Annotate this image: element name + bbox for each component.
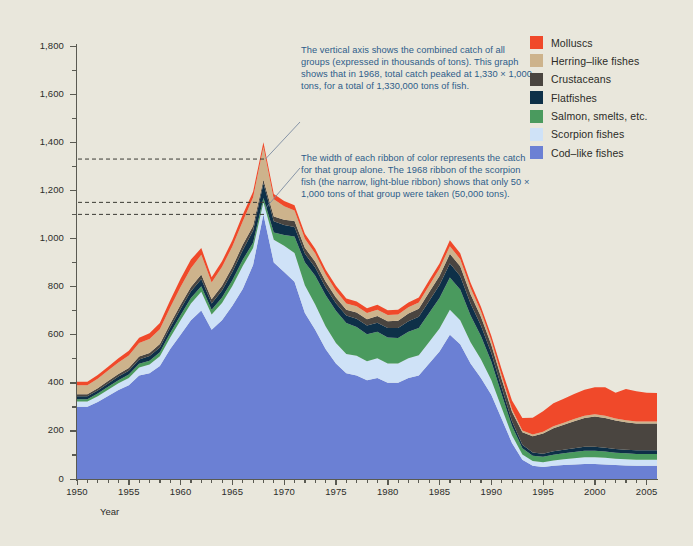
legend-item[interactable]: Herring–like fishes	[530, 54, 690, 67]
x-tick-minor	[201, 480, 202, 483]
x-tick-minor	[139, 480, 140, 483]
y-tick-label: 1,600	[40, 88, 64, 99]
x-tick-minor	[636, 480, 637, 483]
y-tick-label: 800	[48, 280, 64, 291]
x-tick-minor	[615, 480, 616, 483]
y-tick-label: 200	[48, 424, 64, 435]
y-tick-minor	[72, 214, 76, 215]
x-tick-minor	[149, 480, 150, 483]
x-tick	[594, 480, 595, 485]
legend-swatch-icon	[530, 54, 543, 67]
x-tick-minor	[273, 480, 274, 483]
y-tick	[70, 382, 76, 383]
legend-item-label: Molluscs	[551, 37, 593, 49]
x-tick-minor	[118, 480, 119, 483]
x-tick-label: 1955	[109, 486, 149, 497]
y-tick-label: 1,000	[40, 232, 64, 243]
legend-item[interactable]: Flatfishes	[530, 91, 690, 104]
x-tick-minor	[315, 480, 316, 483]
x-tick-minor	[429, 480, 430, 483]
x-tick-minor	[553, 480, 554, 483]
x-tick-minor	[170, 480, 171, 483]
x-tick-minor	[263, 480, 264, 483]
x-tick	[491, 480, 492, 485]
annotation-total-catch: The vertical axis shows the combined cat…	[301, 44, 533, 92]
x-tick-minor	[501, 480, 502, 483]
x-tick-minor	[87, 480, 88, 483]
legend-item[interactable]: Salmon, smelts, etc.	[530, 110, 690, 123]
x-tick-minor	[190, 480, 191, 483]
y-tick-minor	[72, 454, 76, 455]
x-tick	[180, 480, 181, 485]
y-tick	[70, 94, 76, 95]
x-tick-minor	[605, 480, 606, 483]
x-tick-label: 2000	[575, 486, 615, 497]
y-tick	[70, 190, 76, 191]
x-tick-label: 1985	[420, 486, 460, 497]
y-tick-minor	[72, 118, 76, 119]
chart-legend: MolluscsHerring–like fishesCrustaceansFl…	[530, 36, 690, 165]
legend-swatch-icon	[530, 73, 543, 86]
x-tick	[387, 480, 388, 485]
x-tick-label: 2005	[627, 486, 667, 497]
y-tick-label: 0	[59, 473, 64, 484]
legend-item[interactable]: Scorpion fishes	[530, 128, 690, 141]
y-tick	[70, 334, 76, 335]
x-tick-label: 1970	[264, 486, 304, 497]
x-tick-label: 1965	[212, 486, 252, 497]
y-tick-minor	[72, 310, 76, 311]
legend-swatch-icon	[530, 146, 543, 159]
x-tick-label: 1995	[523, 486, 563, 497]
legend-item-label: Crustaceans	[551, 73, 611, 85]
legend-swatch-icon	[530, 128, 543, 141]
legend-item-label: Flatfishes	[551, 92, 597, 104]
legend-item[interactable]: Molluscs	[530, 36, 690, 49]
y-tick-minor	[72, 358, 76, 359]
x-tick-label: 1960	[161, 486, 201, 497]
x-tick-label: 1990	[471, 486, 511, 497]
x-tick-minor	[460, 480, 461, 483]
y-tick-label: 600	[48, 328, 64, 339]
legend-item[interactable]: Cod–like fishes	[530, 146, 690, 159]
x-tick-minor	[512, 480, 513, 483]
x-tick-minor	[563, 480, 564, 483]
x-tick-minor	[325, 480, 326, 483]
x-tick-minor	[408, 480, 409, 483]
x-tick	[335, 480, 336, 485]
x-tick-minor	[222, 480, 223, 483]
x-tick-minor	[574, 480, 575, 483]
x-tick-minor	[470, 480, 471, 483]
legend-item-label: Scorpion fishes	[551, 128, 624, 140]
annotation-ribbon-width: The width of each ribbon of color repres…	[301, 152, 533, 200]
y-tick-label: 400	[48, 376, 64, 387]
x-tick	[128, 480, 129, 485]
x-tick-minor	[159, 480, 160, 483]
x-tick-minor	[625, 480, 626, 483]
x-tick-minor	[480, 480, 481, 483]
x-tick-label: 1980	[368, 486, 408, 497]
x-tick-label: 1950	[57, 486, 97, 497]
x-tick-minor	[532, 480, 533, 483]
legend-item-label: Salmon, smelts, etc.	[551, 110, 648, 122]
x-tick-minor	[356, 480, 357, 483]
x-tick-minor	[108, 480, 109, 483]
legend-item-label: Herring–like fishes	[551, 55, 639, 67]
x-tick-minor	[346, 480, 347, 483]
y-tick-minor	[72, 262, 76, 263]
x-tick-minor	[367, 480, 368, 483]
x-tick-label: 1975	[316, 486, 356, 497]
legend-swatch-icon	[530, 110, 543, 123]
legend-item[interactable]: Crustaceans	[530, 73, 690, 86]
x-tick-minor	[304, 480, 305, 483]
x-tick	[646, 480, 647, 485]
x-tick-minor	[398, 480, 399, 483]
x-tick-minor	[211, 480, 212, 483]
x-tick-minor	[377, 480, 378, 483]
x-tick-minor	[418, 480, 419, 483]
x-tick-minor	[242, 480, 243, 483]
y-axis-line	[76, 44, 77, 481]
chart-page: 02004006008001,0001,2001,4001,6001,80019…	[0, 0, 693, 546]
y-tick	[70, 430, 76, 431]
x-tick-minor	[522, 480, 523, 483]
x-axis-title: Year	[100, 506, 119, 517]
